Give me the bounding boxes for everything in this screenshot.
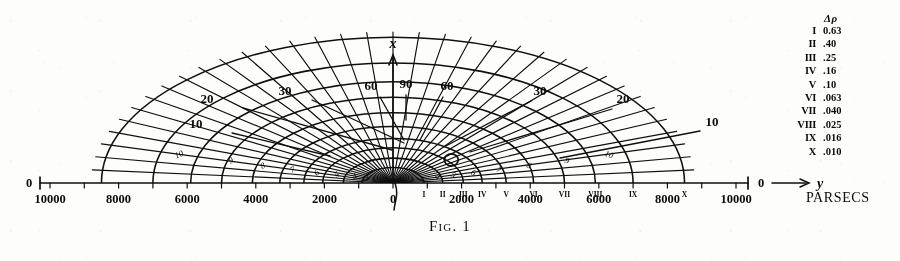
y-axis-label: y [815,176,824,191]
legend-roman: II [786,37,823,50]
legend-roman: X [786,145,823,158]
axis-roman-marker: VI [529,190,537,199]
legend-roman: IX [786,131,823,144]
legend-value: .025 [823,118,841,131]
legend-row: VI.063 [786,91,896,104]
legend-row: X.010 [786,145,896,158]
axis-roman-marker: VIII [588,190,602,199]
legend-value: .16 [823,64,836,77]
axis-roman-marker: V [503,190,509,199]
axis-center-label: 0 [390,192,396,206]
axis-tick-label: 10000 [34,192,65,206]
x-axis-label: x [389,36,397,51]
axis-roman-marker: IV [478,190,487,199]
legend-value: .010 [823,145,841,158]
legend-row: V.10 [786,78,896,91]
legend-value: .016 [823,131,841,144]
legend-rows: I0.63II.40III.25IV.16V.10VI.063VII.040VI… [786,24,896,158]
legend-roman: VI [786,91,823,104]
legend-value: .10 [823,78,836,91]
legend-value: .040 [823,104,841,117]
figure-caption-text: Fig. 1 [429,218,471,234]
axis-tick-label: 8000 [655,192,680,206]
legend-roman: IV [786,64,823,77]
axis-roman-marker: X [682,190,688,199]
radial-angle-label: 90 [400,76,413,91]
figure-caption: Fig. 1 [0,218,900,235]
angle-leader-line [470,109,612,152]
radial-line [393,119,667,183]
axis-tick-label: 6000 [175,192,200,206]
axis-tick-label: 8000 [106,192,131,206]
radial-angle-label: 20 [617,91,630,106]
legend-value: .25 [823,51,836,64]
legend-header: Δρ [824,12,896,24]
axis-roman-marker: VII [559,190,570,199]
radial-angle-label: 10 [706,114,719,129]
legend-row: II.40 [786,37,896,50]
axis-tick-label: 4000 [243,192,268,206]
legend-value: 0.63 [823,24,841,37]
legend-roman: III [786,51,823,64]
arc-inline-label: 10 [173,148,185,161]
arc-inline-label: 8 [259,160,268,171]
legend-row: VII.040 [786,104,896,117]
axis-right-zero: 0 [758,176,764,190]
radial-line [315,37,393,183]
legend-row: VIII.025 [786,118,896,131]
legend-value: .40 [823,37,836,50]
legend-roman: I [786,24,823,37]
axis-roman-marker: II [440,190,446,199]
radial-angle-label: 30 [534,83,547,98]
axis-tick-label: 2000 [312,192,337,206]
legend-value: .063 [823,91,841,104]
radial-angle-label: 20 [201,91,214,106]
radial-line [393,37,471,183]
radial-angle-label: 10 [190,116,203,131]
axis-unit-label: PARSECS [806,190,870,206]
radial-angle-label: 60 [441,78,454,93]
axis-tick-label: 10000 [720,192,751,206]
radial-angle-label: 60 [365,78,378,93]
axis-roman-marker: I [422,190,425,199]
legend-row: I0.63 [786,24,896,37]
legend-roman: VIII [786,118,823,131]
figure-container: 1000080006000400020000200040006000800010… [0,0,900,261]
axis-left-zero: 0 [26,176,32,190]
legend-roman: V [786,78,823,91]
radial-angle-label: 30 [279,83,292,98]
legend-row: IX.016 [786,131,896,144]
axis-roman-marker: IX [629,190,638,199]
legend-row: III.25 [786,51,896,64]
legend: Δρ I0.63II.40III.25IV.16V.10VI.063VII.04… [786,12,896,158]
legend-row: IV.16 [786,64,896,77]
legend-roman: VII [786,104,823,117]
arc-inline-label: 9 [227,155,236,166]
axis-roman-marker: III [459,190,468,199]
